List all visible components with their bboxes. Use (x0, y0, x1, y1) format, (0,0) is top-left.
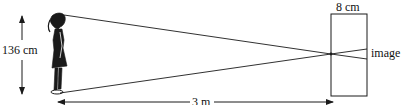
pinhole-camera-diagram: 136 cm 8 cm image 3 m (0, 0, 403, 105)
girl-figure-icon (49, 13, 68, 94)
height-label: 136 cm (2, 44, 38, 56)
light-rays (60, 15, 367, 93)
image-label: image (371, 47, 400, 59)
box-depth-label: 8 cm (336, 1, 360, 13)
diagram-canvas (0, 0, 403, 105)
distance-label: 3 m (192, 96, 210, 105)
pinhole (330, 53, 333, 56)
